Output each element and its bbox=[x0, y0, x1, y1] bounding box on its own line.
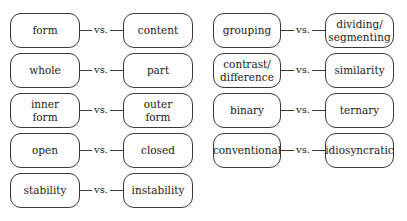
concept-box-binary: binary bbox=[213, 93, 281, 128]
concept-box-grouping: grouping bbox=[213, 13, 281, 48]
concept-box-contrast-difference: contrast/ difference bbox=[213, 53, 281, 88]
vs-label: vs. bbox=[92, 144, 110, 156]
vs-label: vs. bbox=[294, 104, 312, 116]
vs-label: vs. bbox=[294, 144, 312, 156]
vs-label: vs. bbox=[294, 24, 312, 36]
concept-box-content: content bbox=[123, 13, 193, 48]
concept-box-idiosyncratic: idiosyncratic bbox=[325, 133, 394, 168]
concept-box-part: part bbox=[123, 53, 193, 88]
vs-label: vs. bbox=[294, 64, 312, 76]
concept-box-dividing-segmenting: dividing/ segmenting bbox=[325, 13, 394, 48]
vs-label: vs. bbox=[92, 64, 110, 76]
concept-box-ternary: ternary bbox=[325, 93, 394, 128]
vs-label: vs. bbox=[92, 184, 110, 196]
concept-box-whole: whole bbox=[10, 53, 80, 88]
concept-box-inner-form: inner form bbox=[10, 93, 80, 128]
concept-box-outer-form: outer form bbox=[123, 93, 193, 128]
concept-box-similarity: similarity bbox=[325, 53, 394, 88]
concept-box-conventional: conventional bbox=[213, 133, 281, 168]
vs-label: vs. bbox=[92, 24, 110, 36]
concept-box-form: form bbox=[10, 13, 80, 48]
concept-box-instability: instability bbox=[123, 173, 193, 208]
vs-label: vs. bbox=[92, 104, 110, 116]
concept-box-open: open bbox=[10, 133, 80, 168]
concept-box-closed: closed bbox=[123, 133, 193, 168]
concept-box-stability: stability bbox=[10, 173, 80, 208]
